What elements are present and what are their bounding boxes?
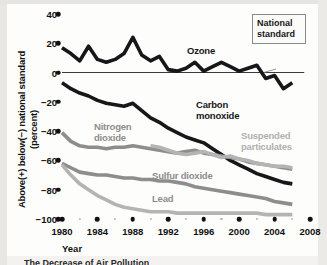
x-tick-dot xyxy=(166,217,171,222)
series-label-nitrogen-dioxide-line1: Nitrogen xyxy=(94,122,131,133)
y-tick-label: −20 xyxy=(41,96,57,107)
series-label-ozone: Ozone xyxy=(187,46,215,57)
series-label-suspended-particulates-line2: particulates xyxy=(241,142,292,153)
x-tick-label: 1980 xyxy=(51,226,72,237)
figure-caption: The Decrease of Air Pollution xyxy=(24,258,149,265)
y-tick-label: −100 xyxy=(36,214,57,225)
series-label-sulfur-dioxide: Sulfur dioxide xyxy=(152,171,213,182)
y-axis-title-line2: (percent) xyxy=(28,22,40,237)
y-tick-label: −80 xyxy=(41,184,57,195)
x-tick-dot xyxy=(308,217,313,222)
series-label-suspended-particulates-line1: Suspended xyxy=(241,131,292,142)
series-line-ozone xyxy=(62,37,292,88)
plot-area: 40200−20−40−60−80−1001980198419881992199… xyxy=(62,14,310,219)
x-tick-dot xyxy=(95,217,100,222)
y-tick-label: −40 xyxy=(41,126,57,137)
series-label-carbon-monoxide-line1: Carbon xyxy=(196,100,239,111)
x-tick-dot xyxy=(201,217,206,222)
x-tick-label: 1984 xyxy=(87,226,108,237)
y-axis-title-line1: Above(+) below(−) national standard xyxy=(16,22,28,237)
page-edge-left xyxy=(0,0,7,265)
x-tick-label: 2008 xyxy=(299,226,320,237)
y-tick-label: 0 xyxy=(52,67,57,78)
x-tick-label: 1988 xyxy=(122,226,143,237)
series-label-suspended-particulates: Suspended particulates xyxy=(241,131,292,152)
x-axis-title: Year xyxy=(62,243,82,254)
national-standard-callout: National standard xyxy=(252,14,306,44)
x-tick-dot xyxy=(272,217,277,222)
x-tick-label: 2004 xyxy=(264,226,285,237)
x-tick-label: 1992 xyxy=(158,226,179,237)
callout-line2: standard xyxy=(257,29,301,40)
x-tick-label: 2000 xyxy=(229,226,250,237)
y-axis-title: Above(+) below(−) national standard (per… xyxy=(16,22,39,237)
x-tick-dot xyxy=(237,217,242,222)
series-label-carbon-monoxide-line2: monoxide xyxy=(196,111,239,122)
series-label-carbon-monoxide: Carbon monoxide xyxy=(196,100,239,121)
x-tick-dot xyxy=(60,217,65,222)
y-tick-label: 40 xyxy=(46,9,57,20)
x-tick-label: 1996 xyxy=(193,226,214,237)
series-label-nitrogen-dioxide: Nitrogen dioxide xyxy=(94,122,131,143)
y-tick-label: 20 xyxy=(46,38,57,49)
x-tick-dot xyxy=(131,217,136,222)
series-label-lead: Lead xyxy=(152,194,173,205)
callout-line1: National xyxy=(257,18,301,29)
y-tick-label: −60 xyxy=(41,155,57,166)
series-label-nitrogen-dioxide-line2: dioxide xyxy=(94,133,131,144)
chart-svg xyxy=(62,14,310,219)
